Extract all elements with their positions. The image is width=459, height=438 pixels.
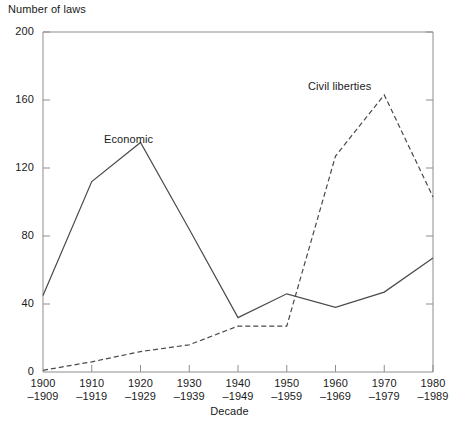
x-tick-label-start-year: 1960: [323, 377, 348, 389]
series-line-civil-liberties: [43, 95, 433, 370]
y-tick-label: 120: [0, 161, 34, 173]
x-tick-label-start-year: 1920: [128, 377, 153, 389]
data-series-group: [43, 95, 433, 370]
x-tick-label-start-year: 1900: [31, 377, 56, 389]
x-tick-label-start-year: 1930: [177, 377, 202, 389]
x-tick-label-start-year: 1940: [226, 377, 251, 389]
y-tick-label: 80: [0, 229, 34, 241]
x-axis-ticks: [92, 365, 433, 372]
x-tick-label-start-year: 1910: [79, 377, 104, 389]
line-chart-figure: Number of laws 04080120160200 1900–19091…: [0, 0, 459, 438]
series-line-economic: [43, 143, 433, 318]
x-tick-label-end-year: –1989: [403, 390, 459, 403]
y-tick-label: 0: [0, 365, 34, 377]
plot-area: [0, 0, 459, 438]
x-tick-label: 1980–1989: [403, 377, 459, 403]
axis-frame-path: [43, 32, 433, 372]
y-tick-label: 160: [0, 93, 34, 105]
y-tick-label: 200: [0, 25, 34, 37]
x-tick-label-start-year: 1950: [274, 377, 299, 389]
figure-caption: [120, 430, 459, 438]
axis-frame: [43, 32, 433, 372]
series-annotation-economic: Economic: [104, 133, 153, 145]
y-tick-label: 40: [0, 297, 34, 309]
x-tick-label-start-year: 1980: [421, 377, 446, 389]
series-annotation-civil-liberties: Civil liberties: [308, 80, 371, 92]
x-axis-title: Decade: [0, 405, 459, 417]
x-tick-label-start-year: 1970: [372, 377, 397, 389]
y-axis-ticks: [43, 32, 433, 304]
